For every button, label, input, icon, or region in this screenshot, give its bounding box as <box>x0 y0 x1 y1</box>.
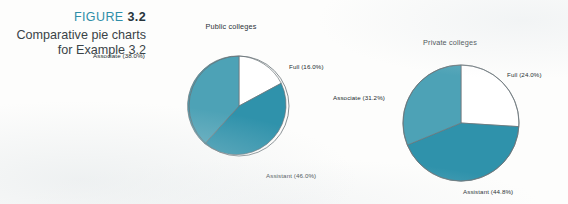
chart-title-public-colleges: Public colleges <box>206 22 257 31</box>
figure-label: FIGURE 3.2 <box>4 10 146 25</box>
pie-label-assistant-private: Assistant (44.8%) <box>463 188 513 195</box>
pie-svg-public <box>188 55 290 157</box>
pie-label-associate-public: Associate (38.0%) <box>93 52 145 59</box>
pie-label-full-private: Full (24.0%) <box>507 71 542 78</box>
pie-public-colleges <box>188 55 290 157</box>
pie-svg-private <box>402 64 520 182</box>
figure-label-number: 3.2 <box>127 10 146 24</box>
pie-private-colleges <box>402 64 520 182</box>
figure-label-word: FIGURE <box>74 10 124 24</box>
chart-title-private-colleges: Private colleges <box>423 38 477 47</box>
figure-page: FIGURE 3.2 Comparative pie charts for Ex… <box>0 0 568 204</box>
pie-label-full-public: Full (16.0%) <box>289 63 324 70</box>
pie-label-assistant-public: Assistant (46.0%) <box>266 172 316 179</box>
pie-label-associate-private: Associate (31.2%) <box>333 94 385 101</box>
